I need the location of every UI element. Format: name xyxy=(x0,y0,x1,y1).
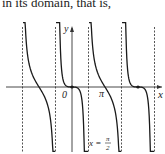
zero-point-marker xyxy=(136,85,139,88)
svg-text:2: 2 xyxy=(106,144,110,152)
asymptotes xyxy=(23,27,155,152)
pi-label: π xyxy=(99,88,105,99)
origin-label: 0 xyxy=(62,89,67,100)
asymptote-label: x = π 2 xyxy=(88,135,111,152)
svg-text:x =: x = xyxy=(88,138,101,148)
y-axis-arrow-icon xyxy=(70,26,74,32)
x-axis-label: x xyxy=(157,88,163,100)
y-axis-label: y xyxy=(63,23,69,34)
svg-text:π: π xyxy=(106,135,110,143)
zero-point-marker xyxy=(70,85,73,88)
graph: y x 0 π x = π 2 xyxy=(0,0,165,154)
